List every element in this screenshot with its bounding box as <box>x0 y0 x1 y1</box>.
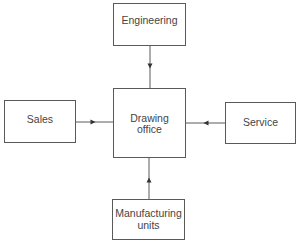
arrowhead-right-icon <box>91 120 96 125</box>
arrowhead-down-icon <box>148 64 153 69</box>
node-sales: Sales <box>4 100 76 143</box>
arrowhead-up-icon <box>147 178 152 183</box>
node-engineering: Engineering <box>113 3 186 46</box>
node-service: Service <box>225 102 296 144</box>
node-drawing-office: Drawing office <box>113 88 186 158</box>
arrowhead-left-icon <box>204 121 209 126</box>
node-manufacturing-units: Manufacturing units <box>112 199 185 240</box>
